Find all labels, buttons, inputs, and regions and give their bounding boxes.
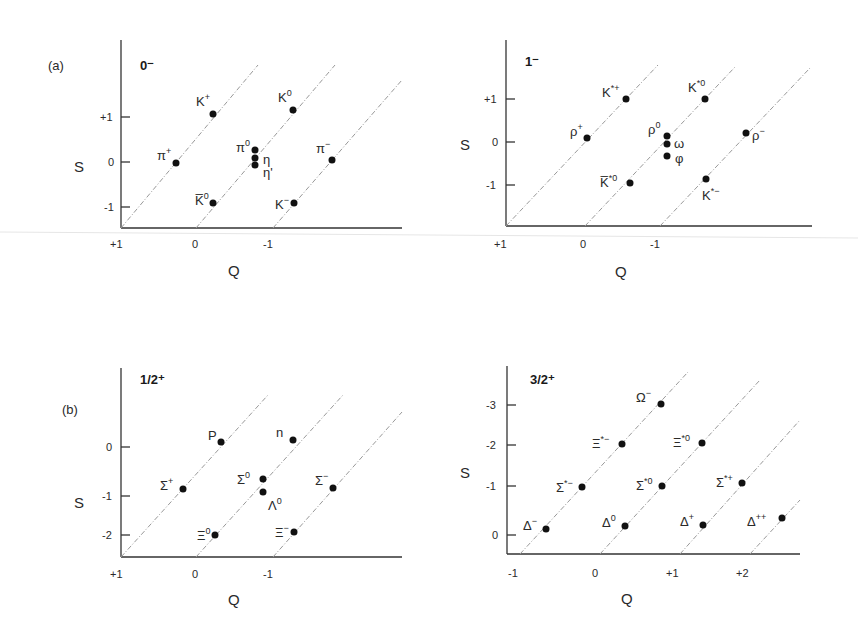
particle-dot — [658, 401, 665, 408]
particle-label: Δ++ — [747, 512, 766, 529]
y-tick-label: -1 — [486, 179, 496, 191]
particle-label: η' — [263, 165, 273, 180]
x-tick-label: +1 — [666, 567, 679, 579]
particle-dot — [330, 485, 337, 492]
particle-label: Ξ− — [275, 523, 289, 540]
particle-dot — [664, 141, 671, 148]
particle-label: K0 — [278, 88, 292, 105]
charge-line — [750, 500, 800, 554]
particle-label: K+ — [196, 92, 210, 109]
x-tick-label: 0 — [192, 238, 198, 250]
panel-baryon-octet: (b) 1/2⁺ 0 -1 -2 +1 0 -1 S Q P n Σ+ Σ0 Λ… — [62, 368, 402, 608]
particle-label: Σ*− — [556, 478, 573, 495]
particle-dot — [779, 515, 786, 522]
charge-line — [680, 420, 800, 554]
particle-dot — [619, 441, 626, 448]
y-tick-label: -3 — [486, 399, 496, 411]
particle-label: Σ− — [315, 471, 328, 488]
particle-label: K− — [275, 195, 289, 212]
particle-label: K̅0 — [195, 191, 209, 208]
particle-label: Λ0 — [268, 496, 282, 513]
particle-label: Ξ0 — [197, 526, 210, 543]
particle-dot — [659, 483, 666, 490]
particle-label: Σ*0 — [636, 476, 653, 493]
particle-label: π− — [316, 139, 330, 156]
particle-label: ρ− — [752, 126, 765, 143]
particle-label: π+ — [157, 146, 171, 163]
particle-dot — [579, 484, 586, 491]
particle-label: Σ0 — [237, 470, 250, 487]
particle-label: Ω− — [636, 388, 651, 405]
panel-title: 1/2⁺ — [140, 372, 165, 387]
x-axis-label: Q — [615, 263, 627, 280]
charge-line — [273, 412, 402, 557]
particle-dot — [260, 476, 267, 483]
particle-dot — [700, 522, 707, 529]
particle-dot — [291, 529, 298, 536]
particle-dot — [210, 200, 217, 207]
particle-dot — [584, 135, 591, 142]
y-tick-label: +1 — [484, 93, 497, 105]
x-axis-label: Q — [228, 262, 240, 279]
panel-baryon-decuplet: 3/2⁺ -3 -2 -1 0 -1 0 +1 +2 S Q Ω− Ξ*− Ξ*… — [460, 366, 800, 607]
particle-label: ρ+ — [570, 122, 583, 139]
particle-label: ρ0 — [648, 120, 660, 137]
particle-label: n — [276, 425, 283, 440]
panel-pseudoscalar-mesons: (a) 0⁻ +1 0 -1 +1 0 -1 S Q K+ K0 π+ π0 η… — [48, 40, 402, 279]
x-tick-label: -1 — [508, 567, 518, 579]
particle-dot — [664, 133, 671, 140]
y-tick-label: 0 — [108, 156, 114, 168]
particle-label: P — [208, 428, 217, 443]
particle-dot — [252, 147, 259, 154]
particle-dot — [291, 200, 298, 207]
y-tick-label: 0 — [106, 441, 112, 453]
particle-dot — [290, 437, 297, 444]
y-axis-label: S — [74, 494, 84, 511]
panel-label-b: (b) — [62, 402, 78, 417]
y-tick-label: 0 — [492, 136, 498, 148]
particle-dot — [623, 96, 630, 103]
particle-dot — [180, 486, 187, 493]
supermultiplet-figure: (a) 0⁻ +1 0 -1 +1 0 -1 S Q K+ K0 π+ π0 η… — [0, 0, 858, 636]
particle-dot — [252, 162, 259, 169]
particle-label: Ξ*0 — [673, 433, 690, 450]
x-tick-label: -1 — [650, 238, 660, 250]
y-axis-label: S — [74, 158, 84, 175]
y-tick-label: -1 — [104, 201, 114, 213]
particle-label: Ξ*− — [592, 434, 609, 451]
x-tick-label: -1 — [263, 238, 273, 250]
particle-dot — [627, 180, 634, 187]
particle-dot — [703, 176, 710, 183]
particle-dot — [173, 160, 180, 167]
particle-label: φ — [675, 151, 683, 166]
x-tick-label: 0 — [592, 567, 598, 579]
particle-label: Σ*+ — [716, 473, 733, 490]
particle-dot — [212, 532, 219, 539]
x-tick-label: 0 — [192, 568, 198, 580]
panel-title: 3/2⁺ — [530, 372, 555, 387]
particle-dot — [252, 155, 259, 162]
y-tick-label: -2 — [102, 529, 112, 541]
particle-dot — [622, 523, 629, 530]
charge-line — [196, 65, 335, 228]
x-tick-label: +1 — [494, 238, 507, 250]
particle-label: ω — [674, 136, 684, 151]
y-axis-label: S — [460, 136, 470, 153]
particle-dot — [543, 526, 550, 533]
y-axis-label: S — [460, 464, 470, 481]
x-tick-label: +1 — [110, 568, 123, 580]
y-tick-label: -2 — [486, 439, 496, 451]
y-tick-label: 0 — [492, 529, 498, 541]
x-tick-label: -1 — [263, 568, 273, 580]
particle-dot — [218, 439, 225, 446]
charge-line — [506, 65, 658, 226]
particle-label: π0 — [236, 138, 250, 155]
particle-label: K*0 — [688, 78, 705, 95]
particle-label: Δ0 — [602, 513, 616, 530]
y-tick-label: +1 — [100, 111, 113, 123]
particle-label: K*− — [702, 186, 719, 203]
particle-dot — [290, 107, 297, 114]
scan-artifact — [0, 232, 858, 238]
particle-label: Δ+ — [680, 512, 694, 529]
particle-label: K*+ — [602, 83, 619, 100]
